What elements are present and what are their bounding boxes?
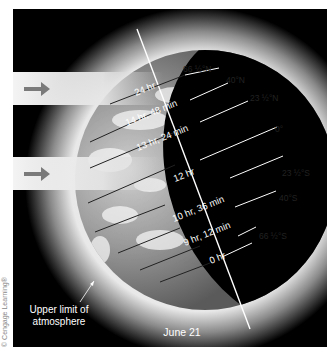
atmosphere-label-line2: atmosphere	[33, 316, 86, 327]
atmosphere-label-line1: Upper limit of	[30, 304, 89, 315]
copyright-credit: © Cengage Learning®	[1, 277, 8, 347]
date-label: June 21	[163, 326, 201, 338]
diagram-panel: 24 hr 14 hr, 48 min 13 hr, 24 min 12 hr …	[13, 9, 327, 347]
latitude-40S: 40°S	[279, 193, 298, 203]
latitude-equator: 0°	[275, 124, 283, 134]
earth-daylength-diagram: 24 hr 14 hr, 48 min 13 hr, 24 min 12 hr …	[13, 9, 327, 347]
latitude-66N: 66 ½°N	[183, 64, 211, 74]
latitude-40N: 40°N	[226, 75, 245, 85]
latitude-23S: 23 ½°S	[282, 168, 310, 178]
latitude-23N: 23 ½°N	[250, 93, 278, 103]
latitude-66S: 66 ½°S	[259, 231, 287, 241]
